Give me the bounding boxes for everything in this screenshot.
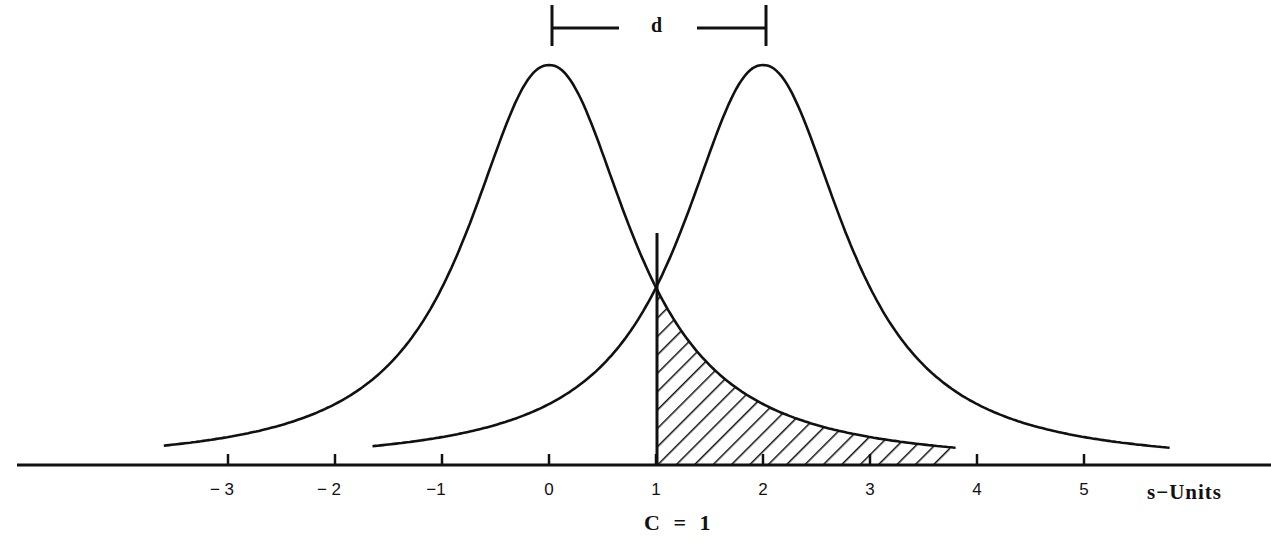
x-tick-label: 2 [758,480,767,500]
shaded-false-alarm-region [656,288,950,465]
x-tick-label: − 2 [317,480,341,500]
x-tick-label: 1 [651,480,660,500]
separation-label: d [651,14,662,37]
x-tick-label: 0 [544,480,553,500]
x-tick-label: 5 [1079,480,1088,500]
criterion-label: C = 1 [644,510,710,536]
x-tick-label: 3 [865,480,874,500]
noise-distribution-curve [164,65,956,448]
signal-distribution-curve [373,65,1170,448]
chart-canvas [0,0,1271,555]
x-tick-label: −1 [426,480,445,500]
x-tick-label: 4 [972,480,981,500]
x-axis-label: s−Units [1147,480,1222,505]
x-tick-label: − 3 [210,480,234,500]
